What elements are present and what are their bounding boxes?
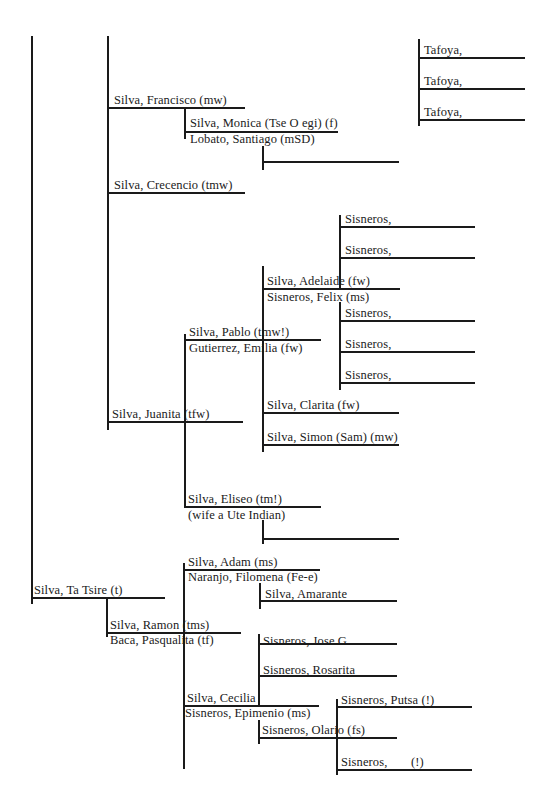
eliseo-child-line [262, 538, 399, 540]
person-ta-tsire: Silva, Ta Tsire (t) [34, 583, 123, 597]
sisneros-4-line [339, 351, 475, 353]
person-simon: Silva, Simon (Sam) (mw) [267, 430, 398, 444]
ramon-children-trunk [183, 563, 185, 769]
person-pasqualita: Baca, Pasqualita (tf) [110, 633, 214, 647]
root-trunk-line [31, 36, 33, 604]
jose-line [258, 643, 397, 645]
sibling-trunk-line [107, 36, 109, 430]
person-sisneros-5: Sisneros, [345, 368, 391, 382]
person-francisco: Silva, Francisco (mw) [114, 93, 227, 107]
rosarita-line [258, 675, 397, 677]
simon-line [262, 444, 399, 446]
juanita-children-trunk [184, 334, 186, 507]
person-jose: Sisneros, Jose G. [263, 634, 350, 648]
monica-child-line [262, 161, 399, 163]
person-clarita: Silva, Clarita (fw) [267, 398, 360, 412]
person-putsa: Sisneros, Putsa (!) [341, 693, 434, 707]
juanita-line [107, 421, 243, 423]
putsa-line [336, 706, 472, 708]
person-emilia: Gutierrez, Emilia (fw) [189, 341, 303, 355]
person-ramon: Silva, Ramon (tms) [110, 618, 209, 632]
sisneros-5-line [339, 382, 475, 384]
person-monica: Silva, Monica (Tse O egi) (f) [190, 116, 338, 130]
tafoya-1-line [418, 57, 525, 59]
person-filomena: Naranjo, Filomena (Fe-e) [188, 570, 318, 584]
person-juanita: Silva, Juanita (tfw) [112, 407, 209, 421]
person-adam: Silva, Adam (ms) [188, 555, 277, 569]
francisco-children-trunk [184, 107, 186, 139]
ta-tsire-children-trunk [106, 597, 108, 637]
monica-children-trunk [262, 146, 264, 170]
sisneros-1-line [339, 226, 475, 228]
person-sisneros-4: Sisneros, [345, 337, 391, 351]
person-tafoya-3: Tafoya, [424, 105, 462, 119]
francisco-line [107, 107, 245, 109]
adelaide-children-trunk-lower [339, 302, 341, 390]
person-cecilia: Silva, Cecilia [187, 691, 256, 705]
person-sisneros-unnamed-mark: (!) [411, 755, 424, 769]
person-sisneros-1: Sisneros, [345, 212, 391, 226]
crecencio-line [107, 192, 245, 194]
person-adelaide: Silva, Adelaide (fw) [267, 274, 370, 288]
sisneros-3-line [339, 320, 475, 322]
epimenio-children-trunk [258, 720, 260, 744]
olario-children-trunk [336, 699, 338, 775]
person-santiago: Lobato, Santiago (mSD) [190, 132, 315, 146]
tafoya-trunk [418, 39, 420, 126]
adam-children-trunk [259, 583, 261, 609]
person-olario: Sisneros, Olario (fs) [262, 723, 365, 737]
person-pablo: Silva, Pablo (tmw!) [189, 325, 289, 339]
person-tafoya-2: Tafoya, [424, 74, 462, 88]
olario-line [258, 737, 397, 739]
person-amarante: Silva, Amarante [265, 587, 347, 601]
person-epimenio: Sisneros, Epimenio (ms) [185, 706, 311, 720]
clarita-line [262, 412, 399, 414]
amarante-line [259, 600, 397, 602]
person-sisneros-unnamed: Sisneros, [341, 755, 387, 769]
tafoya-3-line [418, 119, 525, 121]
person-sisneros-2: Sisneros, [345, 243, 391, 257]
person-eliseo-wife: (wife a Ute Indian) [188, 508, 285, 522]
person-sisneros-3: Sisneros, [345, 306, 391, 320]
person-crecencio: Silva, Crecencio (tmw) [114, 178, 232, 192]
sisneros-unnamed-line [336, 769, 472, 771]
person-tafoya-1: Tafoya, [424, 43, 462, 57]
pablo-children-trunk [262, 266, 264, 452]
ta-tsire-line [31, 597, 165, 599]
sisneros-2-line [339, 257, 475, 259]
eliseo-children-trunk [262, 520, 264, 544]
tafoya-2-line [418, 88, 525, 90]
person-felix: Sisneros, Felix (ms) [267, 290, 369, 304]
person-eliseo: Silva, Eliseo (tm!) [188, 492, 282, 506]
